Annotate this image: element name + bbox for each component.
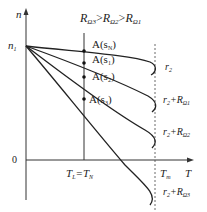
torque-speed-diagram: RΩ3>RΩ2>RΩ1 n n1 0 TL=TN Tm T A(sN) A(s1…: [0, 0, 207, 212]
curve-label-r2: r2: [165, 61, 172, 73]
curve-label-r2-R3: r2+RΩ3: [163, 186, 190, 198]
y-axis-arrow-icon: [24, 8, 29, 15]
title: RΩ3>RΩ2>RΩ1: [79, 11, 141, 26]
y-axis-label: n: [16, 8, 22, 20]
label-sN: A(sN): [92, 38, 116, 51]
point-s2: [82, 75, 86, 79]
x-axis-label: T: [185, 167, 192, 179]
curve-label-r2-R2: r2+RΩ2: [163, 126, 190, 138]
label-s3: A(s3): [89, 93, 112, 106]
label-s1: A(s1): [92, 53, 115, 66]
tm-label: Tm: [160, 167, 171, 180]
point-sN: [82, 49, 86, 53]
point-s3: [82, 97, 86, 101]
x-axis-arrow-icon: [187, 158, 194, 163]
curve-label-r2-R1: r2+RΩ1: [163, 94, 190, 106]
n1-label: n1: [8, 39, 17, 52]
label-s2: A(s2): [92, 70, 115, 83]
point-s1: [82, 61, 86, 65]
origin-label: 0: [12, 154, 17, 165]
tl-tn-label: TL=TN: [66, 167, 94, 180]
